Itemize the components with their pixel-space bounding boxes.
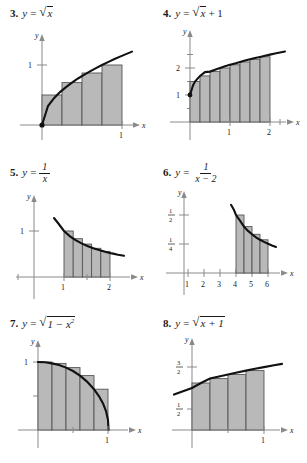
fraction-numerator: 1 <box>177 401 180 408</box>
problem-8-radical: √ x + 1 <box>192 316 224 330</box>
problem-4-plot: y x 1 2 <box>153 22 307 150</box>
y-axis-label: y <box>26 192 31 201</box>
problem-cell-6: 6. y = 1 x − 2 y x <box>153 155 307 310</box>
problem-grid: 3. y = √ x y x 1 <box>0 0 307 463</box>
x-axis-arrow-icon <box>287 119 294 124</box>
fraction-denominator: 2 <box>177 410 180 417</box>
x-axis-arrow-icon <box>131 274 138 279</box>
y-tick-label-1: 1 <box>20 227 24 236</box>
problem-8-heading: 8. y = √ x + 1 <box>163 316 225 330</box>
y-axis-label: y <box>34 31 39 40</box>
radical-sign-icon: √ <box>39 5 46 19</box>
problem-4-radical: √ x <box>192 6 206 20</box>
fraction-numerator: 3 <box>177 359 180 366</box>
problem-3-plot: y x 1 1 <box>0 22 153 150</box>
riemann-bar <box>246 371 264 430</box>
y-tick-label-1: 1 <box>28 61 32 70</box>
chart-4-svg: y x 1 2 <box>154 22 306 150</box>
radical-sign-icon: √ <box>192 315 199 329</box>
y-tick-label-1: 1 <box>176 91 180 100</box>
fraction-numerator: 1 <box>169 207 172 214</box>
riemann-bar <box>228 374 246 430</box>
x-axis-arrow-icon <box>281 427 288 432</box>
y-axis-arrow-icon <box>181 191 186 198</box>
problem-4-equals: = <box>183 7 189 19</box>
riemann-bar <box>100 251 109 277</box>
x-tick-label-5: 5 <box>249 280 253 289</box>
fraction-denominator: 2 <box>169 216 172 223</box>
y-axis-label: y <box>182 27 187 36</box>
problem-4-heading: 4. y = √ x + 1 <box>163 6 223 20</box>
x-axis-label: x <box>295 118 300 127</box>
y-axis-label: y <box>177 188 182 197</box>
x-tick-label-1: 1 <box>119 131 123 140</box>
y-tick-label-2: 2 <box>176 64 180 73</box>
problem-8-lhs: y <box>175 317 180 329</box>
x-tick-label-1: 1 <box>227 128 231 137</box>
y-tick-label-quarter: 1 4 <box>168 236 175 252</box>
y-axis-arrow-icon <box>189 338 194 345</box>
problem-3-heading: 3. y = √ x <box>10 6 53 20</box>
problem-4-addend: + 1 <box>208 7 222 19</box>
problem-4-lhs: y <box>175 7 180 19</box>
x-tick-label-3: 3 <box>217 280 221 289</box>
riemann-bar <box>192 383 210 430</box>
riemann-bar <box>260 240 268 273</box>
riemann-bar <box>200 76 210 122</box>
x-tick-label-1: 1 <box>61 283 65 292</box>
riemann-bar <box>82 73 102 125</box>
x-tick-label-1: 1 <box>185 280 189 289</box>
radical-sign-icon: √ <box>39 315 46 329</box>
problem-7-heading: 7. y = √ 1 − x2 <box>10 316 75 330</box>
problem-7-plot: y x 1 1 <box>0 332 153 458</box>
riemann-bar <box>80 376 94 430</box>
riemann-bar <box>210 379 228 430</box>
riemann-bar <box>52 363 66 430</box>
problem-8-equals: = <box>183 317 189 329</box>
problem-8-plot: y x 3 2 1 2 <box>153 332 307 458</box>
fraction-numerator: 1 <box>200 162 211 174</box>
riemann-bar <box>91 248 100 277</box>
x-tick-label-1: 1 <box>261 436 265 445</box>
y-tick-label-three-halves: 3 2 <box>176 359 183 375</box>
y-axis-arrow-icon <box>35 340 40 347</box>
riemann-bar <box>102 65 122 125</box>
x-axis-label: x <box>137 426 142 435</box>
y-axis-label: y <box>184 335 189 344</box>
riemann-bar <box>220 68 230 122</box>
riemann-bar <box>240 62 250 122</box>
problem-7-number: 7. <box>10 317 18 329</box>
endpoint-dot <box>39 122 44 127</box>
problem-7-radical: √ 1 − x2 <box>39 316 75 330</box>
problem-cell-7: 7. y = √ 1 − x2 y x 1 <box>0 310 153 463</box>
x-tick-label-2: 2 <box>267 128 271 137</box>
riemann-bar <box>82 244 91 277</box>
x-axis-arrow-icon <box>129 427 136 432</box>
x-tick-label-4: 4 <box>233 280 237 289</box>
x-axis-label: x <box>289 269 294 278</box>
y-axis-arrow-icon <box>187 30 192 37</box>
chart-5-svg: y x 1 1 2 <box>2 177 152 305</box>
fraction-numerator: 1 <box>169 236 172 243</box>
problem-8-number: 8. <box>163 317 171 329</box>
riemann-bar <box>73 239 82 277</box>
problem-3-lhs: y <box>22 7 27 19</box>
y-tick-label-1: 1 <box>24 358 28 367</box>
fraction-denominator: 2 <box>177 368 180 375</box>
problem-7-lhs: y <box>22 317 27 329</box>
riemann-bar <box>210 72 220 122</box>
exercise-figure-page: 3. y = √ x y x 1 <box>0 0 307 463</box>
x-tick-label-1: 1 <box>105 436 109 445</box>
problem-3-number: 3. <box>10 7 18 19</box>
x-axis-label: x <box>139 273 144 282</box>
fraction-denominator: 4 <box>169 245 173 252</box>
x-tick-label-2: 2 <box>107 283 111 292</box>
x-axis-label: x <box>141 121 146 130</box>
x-axis-arrow-icon <box>281 270 288 275</box>
y-axis-arrow-icon <box>31 195 36 202</box>
problem-5-plot: y x 1 1 2 <box>0 177 153 305</box>
x-axis-arrow-icon <box>133 122 140 127</box>
x-axis-label: x <box>289 426 294 435</box>
problem-3-radicand: x <box>47 6 54 20</box>
problem-8-radicand: x + 1 <box>200 316 225 330</box>
